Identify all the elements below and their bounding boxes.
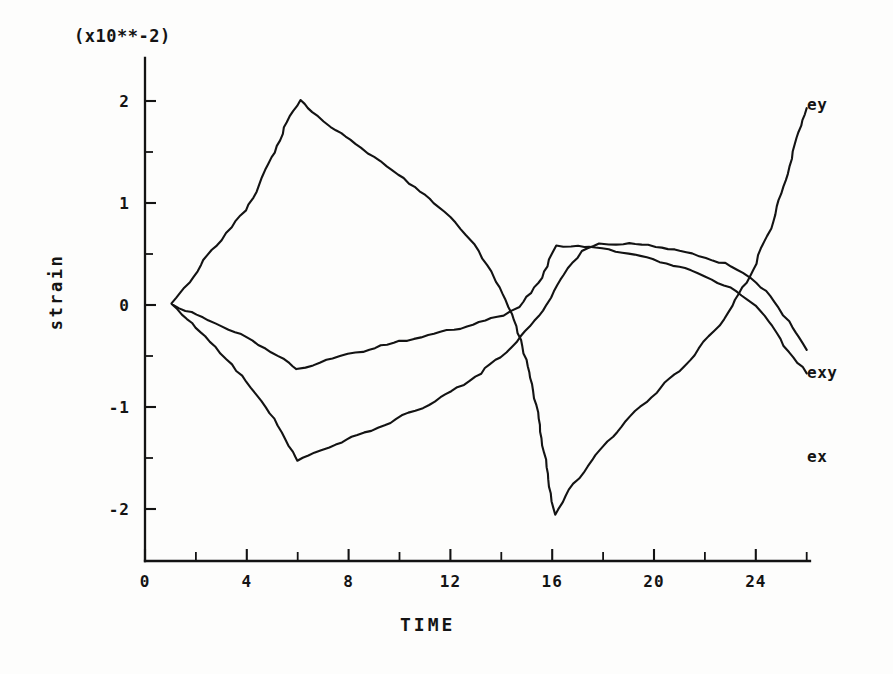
series-label-ex: ex: [807, 447, 827, 466]
y-tick-label-0: 0: [96, 296, 130, 315]
series-label-ey: ey: [807, 95, 827, 114]
x-tick-label-4: 4: [232, 572, 262, 591]
strain-time-chart-figure: (x10**-2) strain TIME 210-1-2 0481216202…: [0, 0, 893, 674]
x-tick-label-12: 12: [435, 572, 465, 591]
y-tick-label-2: 2: [96, 92, 130, 111]
y-tick-label-1: 1: [96, 194, 130, 213]
x-tick-label-20: 20: [639, 572, 669, 591]
curve-exy: [174, 246, 807, 374]
x-tick-label-24: 24: [741, 572, 771, 591]
y-tick-label--2: -2: [96, 500, 130, 519]
x-tick-label-16: 16: [537, 572, 567, 591]
curve-ey: [172, 100, 807, 515]
series-label-exy: exy: [807, 363, 837, 382]
x-tick-label-8: 8: [334, 572, 364, 591]
x-tick-marks: [145, 549, 807, 561]
curve-ex: [172, 243, 807, 461]
x-tick-label-0: 0: [130, 572, 160, 591]
y-tick-label--1: -1: [96, 398, 130, 417]
y-tick-marks: [145, 101, 156, 509]
axes-group: [145, 58, 810, 561]
data-curves: [172, 100, 807, 515]
